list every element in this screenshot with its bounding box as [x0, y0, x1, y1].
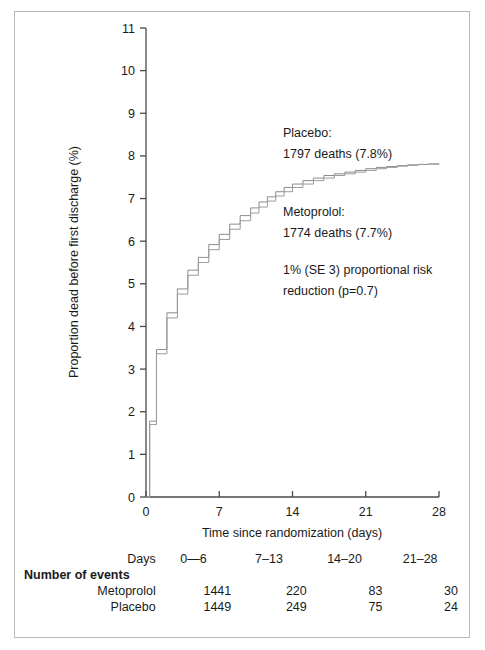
- y-tick-label-8: 8: [128, 149, 135, 163]
- x-tick-label-28: 28: [432, 505, 446, 519]
- events-table-row-label-1: Placebo: [22, 599, 156, 615]
- y-tick-label-6: 6: [128, 235, 135, 249]
- annotation-risk-line-1: reduction (p=0.7): [283, 284, 378, 298]
- y-axis-title: Proportion dead before first discharge (…: [67, 146, 81, 378]
- events-table-row-label-0: Metoprolol: [22, 583, 156, 599]
- events-table-cell-0-2: 83: [307, 583, 383, 599]
- x-axis-ticks: 07142128: [143, 491, 446, 519]
- y-tick-label-7: 7: [128, 192, 135, 206]
- y-tick-label-10: 10: [121, 64, 135, 78]
- events-table-section-row: Number of events: [22, 567, 458, 583]
- events-table-col-header-0: 0—6: [156, 551, 232, 567]
- chart-page: 01234567891011 07142128 Proportion dead …: [0, 0, 485, 650]
- annotation-metoprolol: Metoprolol: 1774 deaths (7.7%): [283, 205, 392, 240]
- y-tick-label-1: 1: [128, 448, 135, 462]
- number-of-events-table: Days0—67–1314–2021–28Number of eventsMet…: [22, 551, 458, 615]
- events-table-section-pad-3: [382, 567, 458, 583]
- events-table-section-pad-0: [156, 567, 232, 583]
- annotation-placebo-line-1: 1797 deaths (7.8%): [283, 147, 392, 161]
- events-table-col-header-1: 7–13: [231, 551, 307, 567]
- survival-curve-plot: 01234567891011 07142128 Proportion dead …: [0, 0, 485, 551]
- annotation-placebo: Placebo: 1797 deaths (7.8%): [283, 126, 392, 161]
- annotation-metoprolol-line-1: 1774 deaths (7.7%): [283, 226, 392, 240]
- y-tick-label-5: 5: [128, 277, 135, 291]
- events-table-col-header-2: 14–20: [307, 551, 383, 567]
- events-table-cell-0-1: 220: [231, 583, 307, 599]
- y-tick-label-11: 11: [122, 22, 135, 36]
- table-row: Metoprolol14412208330: [22, 583, 458, 599]
- events-table-cell-1-1: 249: [231, 599, 307, 615]
- annotation-placebo-line-0: Placebo:: [283, 126, 332, 140]
- events-table-header-row: Days0—67–1314–2021–28: [22, 551, 458, 567]
- y-tick-label-0: 0: [128, 491, 135, 505]
- y-tick-label-3: 3: [128, 363, 135, 377]
- events-table-section-pad-2: [307, 567, 383, 583]
- y-axis-ticks: 01234567891011: [121, 22, 146, 505]
- events-table-cell-1-3: 24: [382, 599, 458, 615]
- events-table-cell-0-0: 1441: [156, 583, 232, 599]
- x-tick-label-21: 21: [359, 505, 373, 519]
- y-tick-label-4: 4: [128, 320, 135, 334]
- events-table-cell-1-0: 1449: [156, 599, 232, 615]
- annotation-risk-line-0: 1% (SE 3) proportional risk: [283, 263, 433, 277]
- x-tick-label-14: 14: [286, 505, 300, 519]
- table-row: Placebo14492497524: [22, 599, 458, 615]
- events-table-days-label: Days: [22, 551, 156, 567]
- x-axis-title: Time since randomization (days): [202, 526, 382, 540]
- events-table-section-label: Number of events: [22, 567, 156, 583]
- annotation-metoprolol-line-0: Metoprolol:: [283, 205, 345, 219]
- annotation-risk-reduction: 1% (SE 3) proportional risk reduction (p…: [283, 263, 433, 298]
- events-table-cell-0-3: 30: [382, 583, 458, 599]
- x-tick-label-7: 7: [216, 505, 223, 519]
- events-table-cell-1-2: 75: [307, 599, 383, 615]
- x-tick-label-0: 0: [143, 505, 150, 519]
- y-tick-label-9: 9: [128, 107, 135, 121]
- events-table-wrapper: Days0—67–1314–2021–28Number of eventsMet…: [14, 551, 470, 615]
- events-table-section-pad-1: [231, 567, 307, 583]
- y-tick-label-2: 2: [128, 405, 135, 419]
- events-table-col-header-3: 21–28: [382, 551, 458, 567]
